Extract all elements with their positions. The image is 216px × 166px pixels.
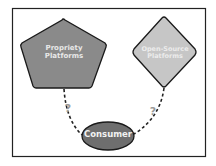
- question-mark-proprietary: ?: [62, 103, 74, 116]
- consumer-label: Consumer: [82, 130, 134, 140]
- diagram-canvas: [0, 0, 216, 166]
- proprietary-label-line2: Platforms: [32, 52, 96, 60]
- proprietary-platforms-label: Propriety Platforms: [32, 44, 96, 60]
- question-mark-open-source: ?: [147, 106, 159, 119]
- proprietary-label-line1: Propriety: [32, 44, 96, 52]
- open-source-platforms-label: Open-Source Platforms: [134, 46, 196, 61]
- open-source-label-line2: Platforms: [134, 53, 196, 60]
